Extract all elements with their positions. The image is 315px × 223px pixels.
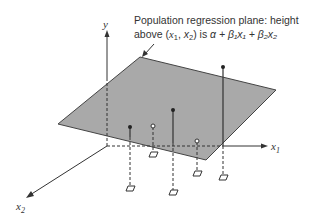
y-axis-arrow-icon — [105, 30, 110, 37]
x2-axis — [30, 146, 107, 195]
x2-axis-arrow-icon — [26, 191, 34, 198]
x1-axis-arrow-icon — [261, 144, 268, 149]
x2-axis-label: x2 — [15, 200, 25, 215]
x1-axis-label: x1 — [270, 140, 280, 155]
annotation-line-1: Population regression plane: height — [134, 14, 299, 26]
regression-plane-diagram: y x1 x2 Population regression plane: hei… — [0, 0, 315, 223]
y-axis-label: y — [102, 18, 108, 30]
annotation-line-2: above (x1, x2) is α + β₁x₁ + β₂x₂ — [134, 28, 277, 42]
regression-plane — [58, 57, 276, 160]
